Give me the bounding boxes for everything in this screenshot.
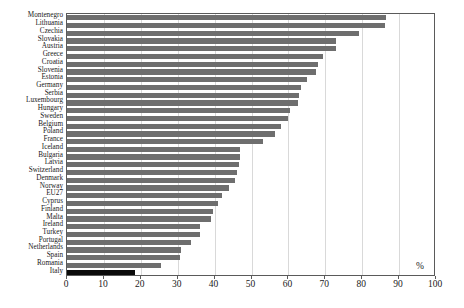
category-axis-labels: MontenegroLithuaniaCzechiaSlovakiaAustri… (0, 13, 63, 276)
bar-greece (67, 54, 323, 59)
bar-iceland (67, 147, 240, 152)
bar-sweden (67, 116, 288, 121)
bar-finland (67, 209, 213, 214)
bar-lithuania (67, 23, 385, 28)
plot-area: % (66, 13, 435, 276)
bar-ireland (67, 224, 200, 229)
bar-austria (67, 46, 336, 51)
bar-slovenia (67, 69, 316, 74)
bar-belgium (67, 124, 281, 129)
bar-hungary (67, 108, 290, 113)
bar-eu27 (67, 193, 222, 198)
bar-turkey (67, 232, 200, 237)
bar-netherlands (67, 247, 181, 252)
bar-chart: MontenegroLithuaniaCzechiaSlovakiaAustri… (0, 0, 464, 308)
bar-portugal (67, 240, 191, 245)
bar-czechia (67, 31, 359, 36)
tick-label-100: 100 (428, 279, 442, 289)
bar-serbia (67, 93, 299, 98)
bar-denmark (67, 178, 235, 183)
bar-series (67, 14, 434, 275)
bar-montenegro (67, 15, 386, 20)
bar-germany (67, 85, 301, 90)
bar-luxembourg (67, 100, 298, 105)
bar-latvia (67, 162, 239, 167)
bar-switzerland (67, 170, 237, 175)
bar-malta (67, 216, 211, 221)
bar-france (67, 139, 263, 144)
tick-label-80: 80 (356, 279, 366, 289)
tick-label-10: 10 (98, 279, 108, 289)
tick-label-90: 90 (393, 279, 403, 289)
bar-romania (67, 263, 161, 268)
tick-label-70: 70 (320, 279, 330, 289)
tick-label-40: 40 (209, 279, 219, 289)
bar-bulgaria (67, 154, 240, 159)
tick-label-20: 20 (135, 279, 145, 289)
bar-cyprus (67, 201, 218, 206)
tick-label-0: 0 (64, 279, 69, 289)
tick-label-50: 50 (246, 279, 256, 289)
tick-label-60: 60 (283, 279, 293, 289)
bar-spain (67, 255, 180, 260)
category-label-italy: Italy (0, 268, 63, 276)
value-axis: 0102030405060708090100 (66, 276, 435, 294)
bar-croatia (67, 62, 318, 67)
bar-poland (67, 131, 275, 136)
tick-label-30: 30 (172, 279, 182, 289)
bar-norway (67, 185, 229, 190)
bar-slovakia (67, 38, 336, 43)
unit-label: % (416, 261, 424, 271)
bar-estonia (67, 77, 307, 82)
bar-italy (67, 270, 135, 275)
